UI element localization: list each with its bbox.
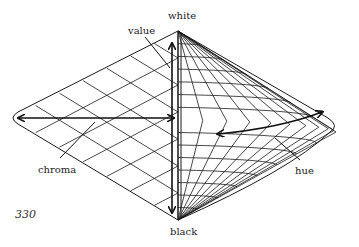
grid-line (59, 85, 178, 147)
hue-arrow (218, 112, 322, 134)
grid-line (59, 93, 178, 166)
grid-line (154, 193, 178, 205)
vertical-section-grid (36, 43, 178, 205)
meridian-line-upper (178, 31, 319, 127)
double-cone-diagram (0, 0, 359, 247)
grid-line (154, 43, 178, 58)
axis-arrows (19, 44, 322, 212)
cone-surface-hue-grid (178, 31, 336, 220)
white-label: white (168, 11, 196, 21)
grid-line (83, 81, 178, 139)
grid-line (131, 56, 178, 85)
chroma-label: chroma (38, 165, 76, 175)
left-outline (13, 31, 178, 220)
value-label: value (128, 26, 155, 36)
meridian-line-upper (178, 31, 290, 124)
page-number: 330 (15, 208, 36, 221)
meridian-line-upper (178, 31, 306, 126)
chroma-leader (60, 122, 95, 158)
hue-label: hue (295, 166, 314, 176)
solid-outline (13, 31, 335, 220)
black-label: black (170, 227, 197, 237)
